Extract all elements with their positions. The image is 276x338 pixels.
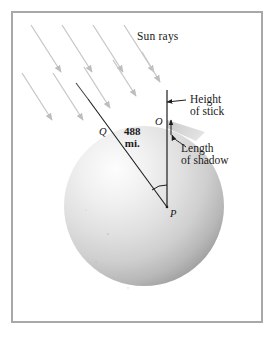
sun-ray-7 (84, 67, 110, 108)
arc-distance-unit: mi. (124, 138, 141, 150)
height-of-stick-label-line1: Height (190, 93, 221, 105)
point-label-q: Q (99, 126, 107, 137)
length-of-shadow-label: Length of shadow (181, 142, 229, 166)
sun-ray-3 (93, 25, 123, 72)
sun-ray-5 (22, 73, 52, 120)
arc-distance-label: 488 mi. (124, 126, 141, 149)
length-of-shadow-label-line1: Length (181, 142, 214, 154)
sun-ray-2 (62, 25, 92, 72)
arc-distance-value: 488 (124, 125, 141, 137)
sun-ray-8 (113, 60, 136, 96)
point-label-o: O (155, 116, 163, 127)
sun-ray-1 (31, 25, 61, 72)
length-of-shadow-label-line2: of shadow (181, 154, 229, 166)
height-of-stick-label: Height of stick (190, 93, 224, 117)
sun-rays-label: Sun rays (137, 30, 179, 42)
height-of-stick-label-line2: of stick (190, 105, 224, 117)
figure-graphic (0, 0, 276, 338)
sun-ray-9 (142, 52, 160, 82)
point-p-dot (166, 206, 169, 209)
height-of-stick-leader (167, 100, 186, 102)
sun-ray-6 (53, 73, 83, 120)
sun-ray-q-upper (76, 83, 88, 99)
point-label-p: P (170, 208, 176, 219)
figure-container: Sun rays Height of stick Length of shado… (0, 0, 276, 338)
